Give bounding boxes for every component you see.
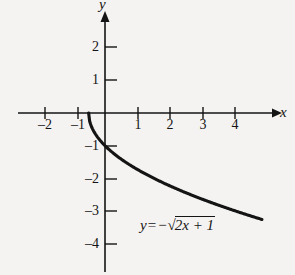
equation-radicand: 2x + 1 xyxy=(175,216,215,233)
equation-minus: − xyxy=(157,217,167,233)
x-axis-label: x xyxy=(280,105,287,120)
y-tick-label: 2 xyxy=(92,40,99,54)
coordinate-plane xyxy=(0,0,295,275)
y-tick-label: –2 xyxy=(85,172,99,186)
equation-equals: = xyxy=(147,217,157,233)
y-axis-arrowhead xyxy=(101,11,110,22)
y-tick-label: –1 xyxy=(85,139,99,153)
x-tick-label: –2 xyxy=(38,118,52,132)
x-tick-label: 4 xyxy=(232,118,239,132)
y-tick-label: 1 xyxy=(92,73,99,87)
x-tick-label: 1 xyxy=(135,118,142,132)
x-tick-label: 3 xyxy=(200,118,207,132)
y-tick-label: –4 xyxy=(85,237,99,251)
y-tick-label: –3 xyxy=(85,204,99,218)
graph-figure: –2 –1 1 2 3 4 2 1 –1 –2 –3 –4 x y y=−√2x… xyxy=(0,0,295,275)
x-tick-label: 2 xyxy=(167,118,174,132)
equation-lhs: y xyxy=(140,217,147,233)
y-axis-label: y xyxy=(99,0,106,12)
x-tick-label: –1 xyxy=(71,118,85,132)
curve-equation-label: y=−√2x + 1 xyxy=(140,218,215,233)
